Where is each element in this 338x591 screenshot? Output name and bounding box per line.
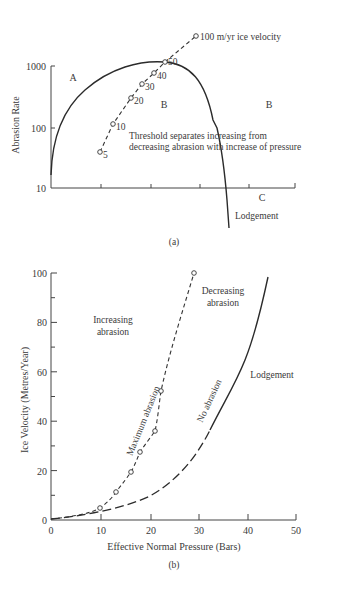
chart-a-threshold-note: decreasing abrasion with increase of pre… (129, 142, 301, 152)
chart-b-no-abrasion-label: No abrasion (195, 377, 224, 423)
chart-a-point (152, 71, 157, 76)
chart-b-max-abrasion-curve (51, 273, 194, 519)
chart-b-point (192, 271, 197, 276)
chart-a-point (129, 96, 134, 101)
chart-a-region-label: A (69, 72, 77, 83)
chart-a-threshold-note: Threshold separates increasing from (129, 131, 268, 141)
chart-a: 1000 100 10 Abrasion Rate 5 10 20 30 40 … (10, 32, 301, 248)
chart-a-ytick-label: 100 (31, 123, 46, 134)
chart-a-point-label: 10 (116, 122, 126, 132)
chart-b-xtick-label: 30 (194, 525, 204, 536)
chart-b-y-label: Ice Velocity (Metres/Year) (19, 347, 31, 453)
chart-b-ytick-label: 20 (37, 466, 47, 477)
chart-a-ytick-label: 10 (36, 183, 46, 194)
chart-b-region-lodgement: Lodgement (250, 370, 294, 380)
chart-a-point-label: 5 (103, 150, 108, 160)
chart-a-region-label: B (266, 99, 273, 110)
chart-b-region-increasing: abrasion (97, 327, 129, 337)
chart-b-xtick-label: 10 (96, 525, 106, 536)
chart-a-point-label: 20 (134, 96, 144, 106)
chart-b-x-ticks (101, 514, 296, 520)
chart-a-region-label: B (161, 99, 168, 110)
chart-b-xtick-label: 0 (49, 525, 54, 536)
chart-b-point (153, 429, 158, 434)
chart-b-region-increasing: Increasing (93, 315, 133, 325)
chart-a-y-label: Abrasion Rate (10, 96, 21, 154)
chart-b-max-abrasion-label: Maximum abrasion (125, 384, 162, 457)
chart-a-point-label: 50 (168, 57, 178, 67)
chart-a-lodgement-label: Lodgement (235, 211, 279, 221)
chart-a-point (194, 34, 199, 39)
chart-a-region-label: C (259, 192, 266, 203)
chart-a-point (140, 82, 145, 87)
chart-b-panel-label: (b) (168, 560, 179, 571)
chart-b-ytick-label: 0 (42, 515, 47, 526)
chart-b-y-ticks (51, 273, 57, 495)
chart-b-point (114, 490, 119, 495)
chart-a-point (163, 60, 168, 65)
chart-a-point-label: 30 (145, 82, 155, 92)
figure-canvas: 1000 100 10 Abrasion Rate 5 10 20 30 40 … (0, 0, 338, 591)
chart-b-region-decreasing: abrasion (207, 298, 239, 308)
chart-a-panel-label: (a) (169, 237, 180, 248)
chart-a-ytick-label: 1000 (26, 61, 46, 72)
chart-b-xtick-label: 20 (146, 525, 156, 536)
chart-b: 100 80 60 40 20 0 0 10 20 30 40 50 Effec… (19, 268, 301, 571)
chart-a-point (111, 122, 116, 127)
chart-a-point-label: 40 (157, 71, 167, 81)
chart-b-ytick-label: 100 (32, 268, 47, 279)
chart-b-point (138, 450, 143, 455)
chart-a-velocity-annotation: 100 m/yr ice velocity (200, 32, 281, 42)
chart-b-point (98, 506, 103, 511)
chart-b-point (129, 470, 134, 475)
chart-b-region-decreasing: Decreasing (202, 286, 245, 296)
chart-b-xtick-label: 40 (243, 525, 253, 536)
chart-a-point (98, 150, 103, 155)
chart-b-ytick-label: 80 (37, 317, 47, 328)
chart-b-xtick-label: 50 (291, 525, 301, 536)
chart-b-x-label: Effective Normal Pressure (Bars) (107, 541, 240, 553)
chart-b-ytick-label: 40 (37, 416, 47, 427)
chart-b-ytick-label: 60 (37, 367, 47, 378)
